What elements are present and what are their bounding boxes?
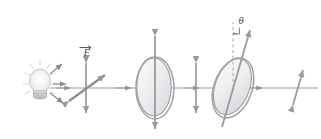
theta-angle-label: θ — [239, 15, 244, 26]
polarizer-one-aperture — [137, 58, 171, 116]
first-polarizing-filter — [136, 36, 174, 129]
second-polarizing-filter: θ — [205, 15, 262, 127]
bulb-screw-base — [34, 91, 47, 99]
polarization-figure: E θ — [0, 0, 321, 139]
bulb-envelope — [30, 69, 51, 93]
polarization-diagram-canvas: E θ — [0, 0, 321, 139]
unpolarized-e-field-cross: E — [69, 46, 105, 113]
light-ray-upper — [50, 64, 62, 74]
light-ray-lower — [50, 93, 63, 103]
incandescent-light-bulb — [23, 60, 66, 103]
